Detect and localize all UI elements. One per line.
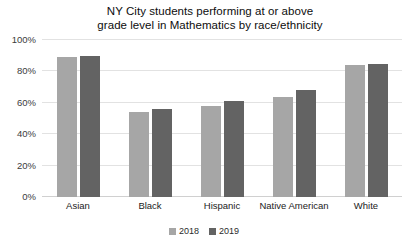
bar-group-native-american (258, 40, 330, 197)
chart-title-line-1: NY City students performing at or above (60, 4, 360, 18)
legend-item-2019[interactable]: 2019 (209, 226, 239, 236)
bar-hispanic-2019[interactable] (224, 101, 244, 197)
bar-white-2019[interactable] (368, 64, 388, 197)
legend-label-2018: 2018 (179, 226, 199, 236)
y-tick-label-0: 0% (22, 191, 36, 202)
legend-swatch-2018 (169, 228, 176, 235)
bar-asian-2019[interactable] (80, 56, 100, 197)
y-tick-label-60: 60% (17, 96, 36, 107)
y-tick-label-80: 80% (17, 65, 36, 76)
bar-asian-2018[interactable] (57, 57, 77, 197)
bar-group-black (114, 40, 186, 197)
bar-native-american-2019[interactable] (296, 90, 316, 197)
bar-group-white (330, 40, 402, 197)
legend-item-2018[interactable]: 2018 (169, 226, 199, 236)
chart-title-line-2: grade level in Mathematics by race/ethni… (60, 18, 360, 32)
x-label-native-american: Native American (258, 200, 330, 211)
chart-title: NY City students performing at or above … (60, 4, 360, 32)
bar-chart: NY City students performing at or above … (0, 0, 408, 246)
x-axis-labels: AsianBlackHispanicNative AmericanWhite (42, 200, 402, 211)
bar-white-2018[interactable] (345, 65, 365, 197)
x-label-asian: Asian (42, 200, 114, 211)
bar-group-hispanic (186, 40, 258, 197)
y-tick-label-40: 40% (17, 128, 36, 139)
bar-hispanic-2018[interactable] (201, 106, 221, 197)
legend-swatch-2019 (209, 228, 216, 235)
plot-area: 0%20%40%60%80%100% (42, 40, 402, 197)
legend-label-2019: 2019 (219, 226, 239, 236)
chart-legend: 20182019 (0, 226, 408, 236)
bars-layer (42, 40, 402, 197)
bar-native-american-2018[interactable] (273, 97, 293, 197)
y-tick-label-100: 100% (12, 34, 36, 45)
y-tick-label-20: 20% (17, 159, 36, 170)
x-label-hispanic: Hispanic (186, 200, 258, 211)
bar-black-2018[interactable] (129, 112, 149, 197)
x-label-black: Black (114, 200, 186, 211)
x-label-white: White (330, 200, 402, 211)
bar-black-2019[interactable] (152, 109, 172, 197)
bar-group-asian (42, 40, 114, 197)
